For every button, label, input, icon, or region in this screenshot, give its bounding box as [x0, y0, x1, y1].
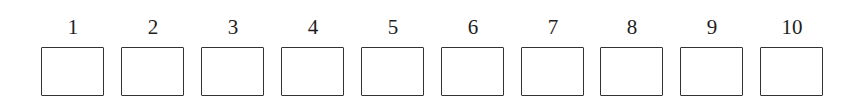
- answer-box[interactable]: [760, 47, 823, 96]
- cell-number: 6: [441, 15, 505, 39]
- answer-cell-5: 5: [361, 0, 425, 100]
- cell-number: 2: [121, 15, 185, 39]
- cell-number: 3: [201, 15, 265, 39]
- cell-number: 4: [281, 15, 345, 39]
- cell-number: 1: [41, 15, 105, 39]
- answer-cell-7: 7: [521, 0, 585, 100]
- answer-box[interactable]: [361, 47, 424, 96]
- answer-box[interactable]: [201, 47, 264, 96]
- cell-number: 8: [600, 15, 664, 39]
- answer-box[interactable]: [121, 47, 184, 96]
- answer-box[interactable]: [281, 47, 344, 96]
- answer-cell-4: 4: [281, 0, 345, 100]
- answer-box[interactable]: [441, 47, 504, 96]
- cell-number: 7: [521, 15, 585, 39]
- answer-box[interactable]: [521, 47, 584, 96]
- answer-cell-1: 1: [41, 0, 105, 100]
- answer-box[interactable]: [680, 47, 743, 96]
- answer-cell-9: 9: [680, 0, 744, 100]
- answer-cell-2: 2: [121, 0, 185, 100]
- cell-number: 9: [680, 15, 744, 39]
- answer-cell-10: 10: [760, 0, 824, 100]
- answer-box[interactable]: [41, 47, 104, 96]
- answer-box[interactable]: [600, 47, 663, 96]
- cell-number: 5: [361, 15, 425, 39]
- answer-cell-6: 6: [441, 0, 505, 100]
- answer-cell-8: 8: [600, 0, 664, 100]
- cell-number: 10: [760, 15, 824, 39]
- answer-cell-3: 3: [201, 0, 265, 100]
